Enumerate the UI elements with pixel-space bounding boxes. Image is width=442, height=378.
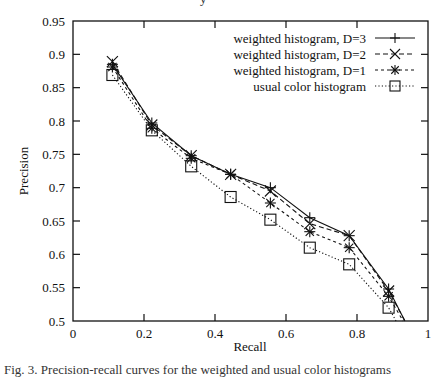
y-tick-label: 0.8 <box>49 114 65 129</box>
legend-label: weighted histogram, D=3 <box>233 31 366 46</box>
x-tick-label: 1 <box>425 326 432 341</box>
x-tick-label: 0 <box>70 326 77 341</box>
figure-caption-cut-off: Fig. 3. Precision-recall curves for the … <box>4 362 391 378</box>
series-asterisk <box>107 62 403 322</box>
legend-label: usual color histogram <box>253 79 366 94</box>
legend-label: weighted histogram, D=2 <box>233 47 366 62</box>
y-tick-label: 0.6 <box>49 247 66 262</box>
series-square <box>107 70 396 322</box>
y-tick-label: 0.55 <box>42 280 65 295</box>
legend-entry: weighted histogram, D=3 <box>233 31 415 46</box>
x-tick-label: 0.4 <box>207 326 224 341</box>
legend: weighted histogram, D=3weighted histogra… <box>233 31 415 94</box>
y-tick-label: 0.85 <box>42 80 65 95</box>
series-plus <box>107 59 405 321</box>
x-tick-label: 0.2 <box>136 326 152 341</box>
y-axis-label: Precision <box>16 146 31 195</box>
series-x <box>107 56 405 321</box>
x-axis-label: Recall <box>233 339 267 354</box>
y-tick-label: 0.95 <box>42 14 65 29</box>
y-tick-label: 0.65 <box>42 214 65 229</box>
y-tick-label: 0.9 <box>49 47 65 62</box>
x-tick-label: 0.8 <box>349 326 365 341</box>
legend-label: weighted histogram, D=1 <box>233 63 366 78</box>
legend-entry: usual color histogram <box>253 79 415 94</box>
y-tick-label: 0.7 <box>49 180 66 195</box>
data-series <box>107 56 405 321</box>
y-tick-label: 0.5 <box>49 314 65 329</box>
x-tick-label: 0.6 <box>278 326 295 341</box>
y-tick-label: 0.75 <box>42 147 65 162</box>
legend-entry: weighted histogram, D=2 <box>233 47 415 62</box>
legend-entry: weighted histogram, D=1 <box>233 63 415 78</box>
